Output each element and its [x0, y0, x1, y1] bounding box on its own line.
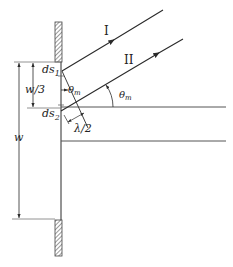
lower-slit-wall	[55, 220, 62, 256]
w-third-label: w/3	[25, 83, 45, 96]
ds2-label: ds2	[42, 107, 60, 122]
half-lambda-label: λ/2	[73, 122, 92, 135]
single-slit-diffraction-diagram: I II ds1 ds2 θm θm w/3 w λ/2	[0, 0, 233, 267]
half-lambda-tick-1	[64, 115, 69, 124]
half-lambda-arrow	[68, 113, 84, 122]
theta-inner-label: θm	[68, 84, 81, 97]
upper-slit-wall	[55, 22, 62, 62]
w-label: w	[14, 131, 24, 144]
ray-2-label: II	[124, 53, 134, 67]
ray-2	[61, 39, 183, 111]
theta-outer-label: θm	[119, 89, 132, 102]
ds1-label: ds1	[42, 63, 60, 78]
theta-outer-arc	[106, 85, 113, 107]
wavefront-line	[62, 71, 88, 128]
ray-1-label: I	[104, 24, 109, 38]
ray-1	[62, 10, 163, 71]
